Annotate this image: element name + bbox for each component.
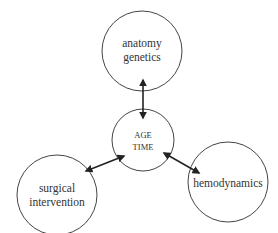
node-label-line: genetics	[123, 51, 161, 64]
node-anatomy-genetics: anatomy genetics	[102, 11, 182, 91]
center-label-line: TIME	[133, 142, 154, 152]
arrow-age-surgical	[86, 156, 124, 171]
node-label-line: hemodynamics	[193, 177, 263, 190]
diagram-canvas: anatomy genetics surgical intervention h…	[0, 0, 278, 233]
center-label-line: AGE	[134, 130, 151, 140]
node-age-time: AGE TIME	[112, 109, 174, 171]
node-label-line: intervention	[29, 196, 85, 208]
node-surgical-intervention: surgical intervention	[17, 155, 97, 233]
node-label-line: anatomy	[122, 37, 162, 50]
node-hemodynamics: hemodynamics	[188, 142, 268, 222]
node-label-line: surgical	[39, 182, 75, 195]
